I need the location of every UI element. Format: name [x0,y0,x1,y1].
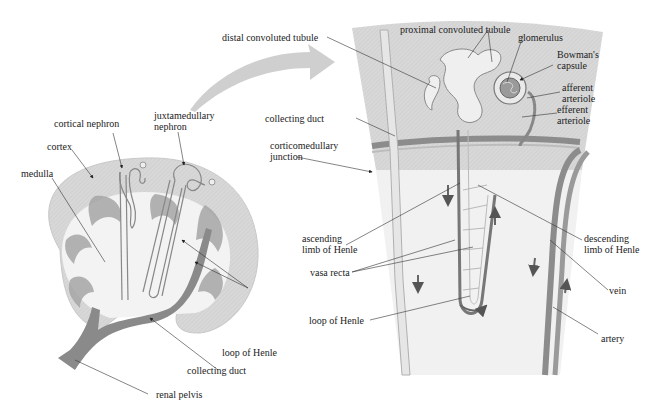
label-vasa-recta: vasa recta [310,267,350,278]
label-efferent-arteriole-line2: arteriole [557,115,590,126]
label-juxtamedullary-nephron-line1: juxtamedullary [154,110,215,121]
label-cortex: cortex [47,141,72,152]
label-collecting-duct-left: collecting duct [187,365,246,376]
label-distal-convoluted-tubule: distal convoluted tubule [222,32,318,43]
label-cortical-nephron: cortical nephron [54,118,119,129]
glomerulus-shape [500,78,520,98]
nephron-detail [352,21,603,375]
label-ascending-limb-line1: ascending [302,233,342,244]
label-medulla: medulla [21,168,53,179]
label-ascending-limb-line2: limb of Henle [302,244,358,255]
label-juxtamedullary-nephron-line2: nephron [154,121,187,132]
label-descending-limb-line2: limb of Henle [584,244,640,255]
label-renal-pelvis: renal pelvis [156,389,202,400]
label-descending-limb-line1: descending [584,233,629,244]
label-afferent-arteriole-line2: arteriole [562,93,595,104]
label-loop-of-henle-right: loop of Henle [309,315,364,326]
label-loop-of-henle-left: loop of Henle [222,347,277,358]
label-afferent-arteriole-line1: afferent [562,82,593,93]
label-bowmans-capsule-line1: Bowman's [557,49,599,60]
kidney-cross-section [49,158,258,370]
label-collecting-duct-right: collecting duct [265,113,324,124]
enlargement-arrow [190,44,335,112]
label-corticomedullary-junction-line1: corticomedullary [270,140,338,151]
label-bowmans-capsule-line2: capsule [557,60,587,71]
label-corticomedullary-junction-line2: junction [270,151,303,162]
label-efferent-arteriole-line1: efferent [557,104,588,115]
label-glomerulus: glomerulus [518,32,563,43]
label-vein: vein [609,285,626,296]
label-proximal-convoluted-tubule: proximal convoluted tubule [400,24,511,35]
label-artery: artery [601,333,624,344]
